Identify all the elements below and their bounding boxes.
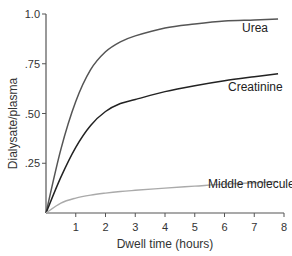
x-tick-label: 5 <box>192 221 198 233</box>
x-tick-label: 1 <box>73 221 79 233</box>
series-label-creatinine: Creatinine <box>228 80 283 94</box>
x-axis-label: Dwell time (hours) <box>117 237 214 251</box>
y-tick-label: 1.0 <box>25 8 40 20</box>
series-label-urea: Urea <box>242 21 268 35</box>
series-line-creatinine <box>46 74 278 213</box>
axes: .25.50.751.012345678Dwell time (hours)Di… <box>6 8 287 251</box>
x-tick-label: 6 <box>221 221 227 233</box>
y-tick-label: .50 <box>25 108 40 120</box>
x-tick-label: 7 <box>251 221 257 233</box>
chart: .25.50.751.012345678Dwell time (hours)Di… <box>0 0 292 256</box>
series-label-middle-molecule: Middle molecule <box>208 177 292 191</box>
chart-svg: .25.50.751.012345678Dwell time (hours)Di… <box>0 0 292 256</box>
labels: UreaCreatinineMiddle molecule <box>208 21 292 191</box>
x-tick-label: 2 <box>102 221 108 233</box>
x-tick-label: 4 <box>162 221 168 233</box>
y-tick-label: .25 <box>25 157 40 169</box>
y-tick-label: .75 <box>25 58 40 70</box>
x-tick-label: 3 <box>132 221 138 233</box>
x-tick-label: 8 <box>281 221 287 233</box>
y-axis-label: Dialysate/plasma <box>6 77 20 169</box>
